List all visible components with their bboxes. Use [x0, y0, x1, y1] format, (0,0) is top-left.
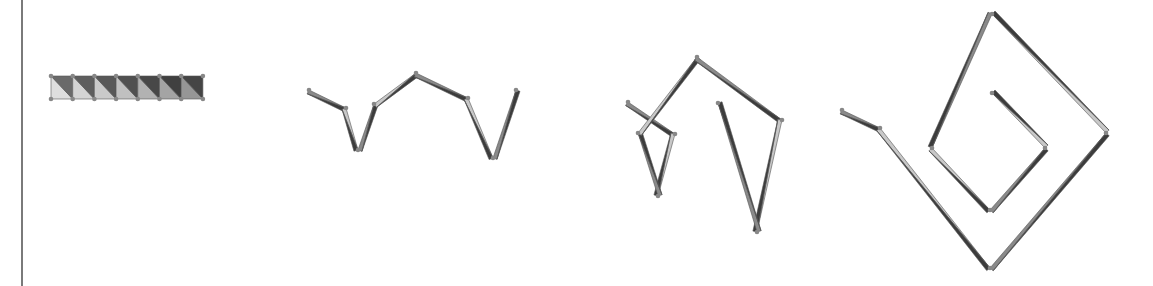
partial-fold-panel	[626, 55, 785, 235]
spiral-fold-panel	[840, 11, 1109, 271]
flat-strip-panel	[49, 74, 206, 102]
folding-strip-diagram	[0, 0, 1153, 286]
zigzag-fold-panel	[307, 71, 520, 161]
